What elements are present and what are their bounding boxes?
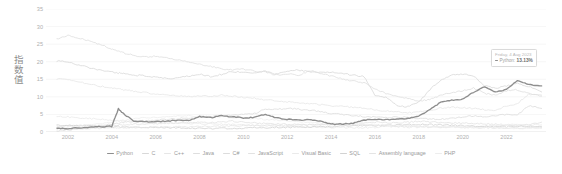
legend-label: SQL <box>349 150 360 157</box>
x-axis-tick-label: 2006 <box>149 134 161 141</box>
legend-swatch-icon <box>292 153 299 154</box>
legend-label: Assembly language <box>379 150 426 157</box>
series-line <box>57 35 542 101</box>
legend-item-c[interactable]: C <box>142 150 155 157</box>
legend-label: PHP <box>444 150 455 157</box>
y-axis-tick-label: 30 <box>25 24 43 30</box>
y-axis-tick-labels: 05101520253035 <box>24 9 43 132</box>
x-axis-tick-label: 2004 <box>106 134 118 141</box>
x-axis-tick-label: 2002 <box>62 134 74 141</box>
legend-swatch-icon <box>435 153 442 154</box>
legend-swatch-icon <box>248 153 255 154</box>
legend-label: C <box>152 150 156 157</box>
legend-label: C++ <box>174 150 184 157</box>
tooltip-date: Friday, 4 Aug 2023 <box>495 52 533 57</box>
legend-item-sql[interactable]: SQL <box>340 150 360 157</box>
x-axis-tick-label: 2014 <box>325 134 337 141</box>
series-line <box>57 61 542 108</box>
y-axis-tick-label: 20 <box>25 59 43 65</box>
legend-label: Visual Basic <box>302 150 331 157</box>
x-axis-tick-label: 2022 <box>500 134 512 141</box>
x-axis-tick-label: 2008 <box>193 134 205 141</box>
legend-item-java[interactable]: Java <box>193 150 214 157</box>
y-axis-tick-label: 0 <box>25 129 43 135</box>
x-axis-tick-label: 2016 <box>369 134 381 141</box>
legend-item-php[interactable]: PHP <box>435 150 456 157</box>
legend-swatch-icon <box>193 153 200 154</box>
x-axis-tick-labels: 2002200420062008201020122014201620182020… <box>46 134 546 144</box>
x-axis-tick-label: 2012 <box>281 134 293 141</box>
plot-area <box>46 9 546 132</box>
y-axis-tick-label: 10 <box>25 94 43 100</box>
y-axis-tick-label: 35 <box>25 6 43 12</box>
x-axis-tick-label: 2010 <box>237 134 249 141</box>
legend-label: C# <box>233 150 240 157</box>
chart-tooltip: Friday, 4 Aug 2023 Python: 13.13% <box>491 49 537 67</box>
legend-item-javascript[interactable]: JavaScript <box>248 150 283 157</box>
y-axis-title: 指数值 <box>11 44 25 96</box>
legend-label: Python <box>116 150 133 157</box>
x-axis-tick-label: 2020 <box>456 134 468 141</box>
legend-item-c[interactable]: C# <box>223 150 239 157</box>
legend-label: Java <box>203 150 214 157</box>
tooltip-series-name: Python: <box>500 58 516 63</box>
legend-swatch-icon <box>340 153 347 154</box>
legend-item-assembly-language[interactable]: Assembly language <box>369 150 426 157</box>
chart-canvas <box>46 9 546 132</box>
legend-label: JavaScript <box>258 150 283 157</box>
legend-item-python[interactable]: Python <box>107 150 133 157</box>
tooltip-marker-icon <box>495 60 498 61</box>
legend-item-c[interactable]: C++ <box>164 150 184 157</box>
y-axis-tick-label: 5 <box>25 111 43 117</box>
x-axis-tick-label: 2018 <box>413 134 425 141</box>
tooltip-value: 13.13% <box>517 58 533 63</box>
chart-root: 指数值 05101520253035 200220042006200820102… <box>0 0 562 174</box>
legend-swatch-icon <box>142 153 149 154</box>
legend-swatch-icon <box>223 153 230 154</box>
legend-swatch-icon <box>369 153 376 154</box>
legend-swatch-icon <box>107 153 114 155</box>
tooltip-series-row: Python: 13.13% <box>495 58 533 63</box>
legend-swatch-icon <box>164 153 171 154</box>
y-axis-tick-label: 15 <box>25 76 43 82</box>
y-axis-tick-label: 25 <box>25 41 43 47</box>
chart-legend: PythonCC++JavaC#JavaScriptVisual BasicSQ… <box>0 150 562 157</box>
legend-item-visual-basic[interactable]: Visual Basic <box>292 150 331 157</box>
